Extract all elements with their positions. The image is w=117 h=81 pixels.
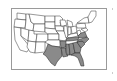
state-ohio: [71, 26, 77, 34]
state-michigan: [67, 20, 73, 27]
state-iowa: [55, 26, 64, 31]
state-new-mexico: [35, 42, 45, 53]
state-indiana: [68, 27, 71, 35]
state-pennsylvania: [76, 23, 86, 28]
state-arkansas: [60, 41, 66, 48]
state-kansas: [48, 34, 59, 40]
state-colorado: [36, 34, 48, 42]
scan-mark: [112, 8, 113, 10]
scan-mark: [112, 72, 113, 74]
state-utah: [28, 30, 37, 42]
state-new-england: [88, 11, 96, 23]
state-tennessee: [66, 37, 79, 41]
state-maryland-delaware-nj: [81, 28, 88, 32]
us-map: [0, 0, 117, 81]
state-florida: [71, 53, 84, 66]
state-wyoming: [33, 24, 45, 32]
state-wisconsin: [60, 20, 67, 26]
state-oregon: [14, 19, 26, 28]
state-north-dakota: [45, 16, 55, 22]
state-montana: [29, 14, 45, 24]
state-washington: [17, 13, 26, 20]
state-texas: [43, 44, 62, 66]
state-arizona: [27, 41, 36, 53]
state-new-york: [77, 17, 89, 23]
